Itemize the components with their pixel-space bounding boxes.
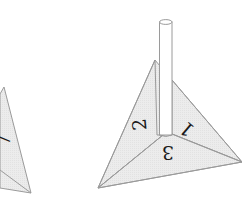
pyramid-main: 2 1 3 xyxy=(98,20,242,188)
partial-pyramid-left: 7 xyxy=(0,87,31,193)
rod-top xyxy=(160,20,173,25)
vertical-rod xyxy=(160,20,173,137)
face-3-label: 3 xyxy=(162,142,174,164)
partial-face-label: 7 xyxy=(0,134,14,146)
face-2-label: 2 xyxy=(128,118,151,132)
rod-body xyxy=(160,22,173,135)
diagram-canvas: 7 2 1 3 xyxy=(0,0,242,209)
